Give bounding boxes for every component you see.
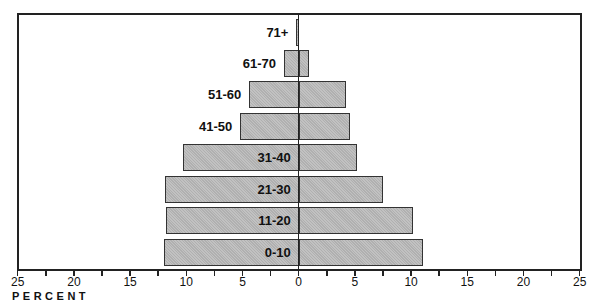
x-tick-label: 15 [115, 275, 145, 289]
bar-left-61-70 [284, 50, 299, 77]
x-tick-label: 25 [3, 275, 33, 289]
x-tick-label: 5 [228, 275, 258, 289]
category-label: 51-60 [181, 81, 241, 108]
x-tick-label: 15 [452, 275, 482, 289]
x-tick [438, 271, 440, 276]
category-label: 11-20 [231, 207, 291, 234]
category-label: 61-70 [216, 50, 276, 77]
category-label: 71+ [228, 19, 288, 46]
bar-right-0-10 [299, 239, 424, 266]
bar-left-51-60 [249, 81, 298, 108]
category-label: 0-10 [231, 239, 291, 266]
bar-right-41-50 [299, 113, 351, 140]
bar-right-31-40 [299, 144, 357, 171]
bar-right-11-20 [299, 207, 414, 234]
bar-right-21-30 [299, 176, 383, 203]
x-tick-label: 5 [340, 275, 370, 289]
category-label: 21-30 [231, 176, 291, 203]
x-tick [45, 271, 47, 276]
x-tick-label: 10 [171, 275, 201, 289]
x-tick-label: 25 [565, 275, 595, 289]
x-tick [326, 271, 328, 276]
x-tick [157, 271, 159, 276]
x-tick [101, 271, 103, 276]
x-tick-label: 10 [396, 275, 426, 289]
bar-left-41-50 [240, 113, 298, 140]
x-tick [214, 271, 216, 276]
x-tick [495, 271, 497, 276]
x-tick [551, 271, 553, 276]
x-tick-label: 20 [509, 275, 539, 289]
bar-right-51-60 [299, 81, 346, 108]
category-label: 41-50 [172, 113, 232, 140]
bar-right-61-70 [299, 50, 309, 77]
x-tick-label: 0 [284, 275, 314, 289]
x-tick-label: 20 [59, 275, 89, 289]
x-axis-label: PERCENT [12, 290, 89, 302]
x-tick [382, 271, 384, 276]
x-tick [270, 271, 272, 276]
category-label: 31-40 [231, 144, 291, 171]
center-axis-line [298, 14, 299, 271]
